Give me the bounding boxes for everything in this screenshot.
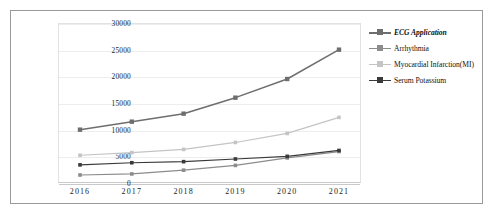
x-axis-tick-label: 2016	[52, 187, 108, 196]
data-point-marker	[130, 151, 134, 155]
data-point-marker	[285, 155, 289, 159]
data-point-marker	[78, 163, 82, 167]
data-point-marker	[182, 148, 186, 152]
legend-swatch-icon	[369, 76, 391, 86]
data-point-marker	[285, 132, 289, 136]
data-point-marker	[78, 153, 82, 157]
data-point-marker	[234, 157, 238, 161]
legend-swatch-icon	[369, 44, 391, 54]
data-point-marker	[78, 173, 82, 177]
series-layer	[58, 23, 361, 183]
legend-label: Serum Potassium	[394, 76, 446, 85]
series-line	[80, 50, 339, 130]
legend-item[interactable]: Arrhythmia	[369, 41, 481, 56]
data-point-marker	[182, 168, 186, 172]
legend-swatch-icon	[369, 28, 391, 38]
line-chart: 050001000015000200002500030000 201620172…	[11, 11, 484, 205]
chart-frame: 050001000015000200002500030000 201620172…	[10, 10, 483, 204]
legend-label: Arrhythmia	[394, 44, 429, 53]
x-axis-tick-label: 2018	[156, 187, 212, 196]
legend-label: ECG Application	[394, 28, 447, 37]
data-point-marker	[130, 172, 134, 176]
legend-item[interactable]: ECG Application	[369, 25, 481, 40]
data-point-marker	[337, 149, 341, 153]
series-line	[80, 150, 339, 164]
data-point-marker	[78, 127, 82, 131]
x-axis-tick-label: 2020	[259, 187, 315, 196]
data-point-marker	[285, 77, 289, 81]
x-axis-tick-label: 2021	[311, 187, 367, 196]
data-point-marker	[234, 164, 238, 168]
data-point-marker	[337, 116, 341, 120]
data-point-marker	[337, 47, 341, 51]
data-point-marker	[130, 161, 134, 165]
data-point-marker	[130, 119, 134, 123]
chart-legend: ECG ApplicationArrhythmiaMyocardial Infa…	[369, 25, 481, 89]
data-point-marker	[182, 160, 186, 164]
x-axis-tick-label: 2019	[207, 187, 263, 196]
legend-label: Myocardial Infarction(MI)	[394, 60, 474, 69]
data-point-marker	[233, 95, 237, 99]
legend-item[interactable]: Myocardial Infarction(MI)	[369, 57, 481, 72]
x-axis-tick-label: 2017	[104, 187, 160, 196]
data-point-marker	[234, 141, 238, 145]
legend-item[interactable]: Serum Potassium	[369, 73, 481, 88]
legend-swatch-icon	[369, 60, 391, 70]
data-point-marker	[181, 111, 185, 115]
